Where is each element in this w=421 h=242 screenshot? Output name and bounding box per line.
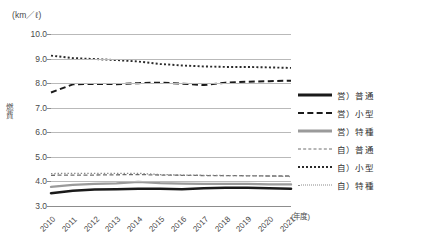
y-axis-tick-mark bbox=[47, 59, 51, 60]
gridline bbox=[51, 157, 291, 158]
legend-item[interactable]: 自）普通 bbox=[298, 140, 416, 158]
y-axis-tick-label: 7.0 bbox=[0, 103, 47, 113]
y-axis-tick-mark bbox=[47, 34, 51, 35]
legend-item-label: 営）小型 bbox=[337, 107, 374, 119]
y-axis-title-char-2: 費 bbox=[2, 112, 16, 120]
y-axis-tick-label: 10.0 bbox=[0, 29, 47, 39]
y-axis-unit-caption: (km／ℓ) bbox=[12, 8, 41, 20]
gridline bbox=[51, 132, 291, 133]
y-axis-tick-label: 5.0 bbox=[0, 152, 47, 162]
legend-item-label: 自）小型 bbox=[337, 161, 374, 173]
series-canvas bbox=[51, 34, 291, 206]
x-axis-tick-label: 2018 bbox=[213, 215, 232, 234]
legend-item-label: 自）普通 bbox=[337, 143, 374, 155]
gridline bbox=[51, 83, 291, 84]
x-axis-tick-label: 2019 bbox=[235, 215, 254, 234]
y-axis-tick-label: 9.0 bbox=[0, 54, 47, 64]
legend-line-swatch-icon bbox=[298, 143, 332, 155]
y-axis-tick-label: 8.0 bbox=[0, 78, 47, 88]
y-axis-tick-label: 6.0 bbox=[0, 127, 47, 137]
x-axis-unit-label: (年度) bbox=[291, 210, 310, 221]
x-axis-tick-label: 2010 bbox=[38, 215, 57, 234]
legend-line-swatch-icon bbox=[298, 179, 332, 191]
y-axis-tick-mark bbox=[47, 108, 51, 109]
y-axis-tick-mark bbox=[47, 157, 51, 158]
x-axis-tick-label: 2016 bbox=[169, 215, 188, 234]
plot-area bbox=[51, 34, 291, 206]
legend-item[interactable]: 営）特種 bbox=[298, 122, 416, 140]
x-axis-tick-label: 2012 bbox=[82, 215, 101, 234]
x-axis-tick-label: 2015 bbox=[147, 215, 166, 234]
x-axis-tick-label: 2014 bbox=[126, 215, 145, 234]
x-axis-tick-labels: 2010201120122013201420152016201720182019… bbox=[51, 206, 291, 242]
series-line bbox=[51, 188, 291, 193]
x-axis-tick-label: 2017 bbox=[191, 215, 210, 234]
y-axis-tick-mark bbox=[47, 83, 51, 84]
series-line bbox=[51, 56, 291, 68]
x-axis-tick-label: 2013 bbox=[104, 215, 123, 234]
chart-root: (km／ℓ) 燃 費 3.04.05.06.07.08.09.010.0 201… bbox=[0, 0, 421, 242]
x-axis-tick-label: 2020 bbox=[256, 215, 275, 234]
gridline bbox=[51, 108, 291, 109]
y-axis-tick-mark bbox=[47, 132, 51, 133]
legend-item-label: 自）特種 bbox=[337, 179, 374, 191]
gridline bbox=[51, 34, 291, 35]
y-axis-tick-label: 4.0 bbox=[0, 176, 47, 186]
legend-line-swatch-icon bbox=[298, 125, 332, 137]
y-axis-tick-mark bbox=[47, 181, 51, 182]
x-axis-tick-label: 2011 bbox=[60, 215, 79, 234]
legend-item-label: 営）特種 bbox=[337, 125, 374, 137]
legend-item-label: 営）普通 bbox=[337, 89, 374, 101]
legend-line-swatch-icon bbox=[298, 89, 332, 101]
legend-item[interactable]: 自）特種 bbox=[298, 176, 416, 194]
gridline bbox=[51, 181, 291, 182]
legend-item[interactable]: 営）小型 bbox=[298, 104, 416, 122]
legend-line-swatch-icon bbox=[298, 107, 332, 119]
legend-item[interactable]: 営）普通 bbox=[298, 86, 416, 104]
gridline bbox=[51, 59, 291, 60]
series-line bbox=[51, 182, 291, 187]
chart-legend: 営）普通営）小型営）特種自）普通自）小型自）特種 bbox=[298, 86, 416, 194]
legend-line-swatch-icon bbox=[298, 161, 332, 173]
legend-item[interactable]: 自）小型 bbox=[298, 158, 416, 176]
y-axis-tick-label: 3.0 bbox=[0, 201, 47, 211]
